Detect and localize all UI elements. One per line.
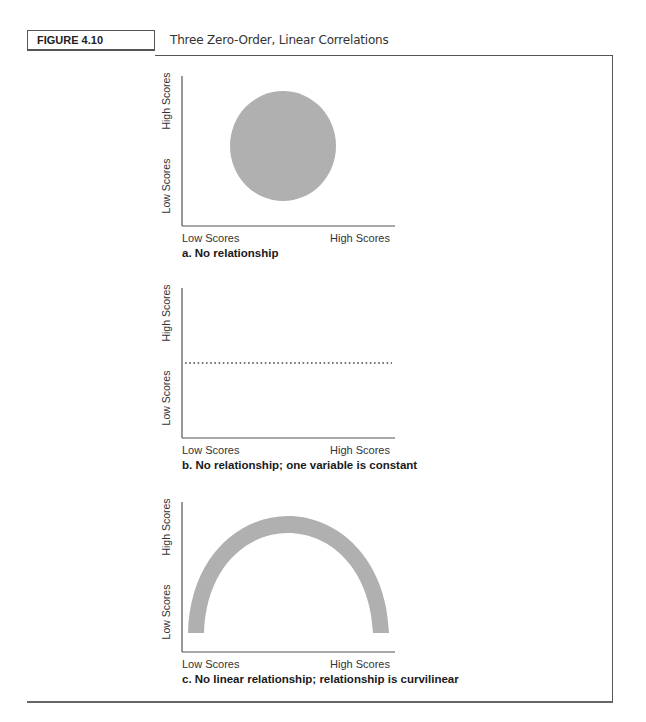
x-label-low: Low Scores: [182, 232, 239, 244]
frame-top-border: [155, 55, 613, 56]
x-label-low: Low Scores: [182, 658, 239, 670]
y-label-low: Low Scores: [160, 371, 172, 426]
frame-right-border: [612, 55, 613, 702]
panel-b-constant: High Scores Low Scores Low Scores High S…: [150, 282, 430, 472]
figure-title: Three Zero-Order, Linear Correlations: [170, 33, 389, 47]
y-label-low: Low Scores: [160, 159, 172, 214]
scatter-cloud-circle: [230, 91, 336, 201]
x-label-high: High Scores: [330, 444, 390, 456]
panel-c-curvilinear: High Scores Low Scores Low Scores High S…: [150, 496, 430, 696]
y-label-high: High Scores: [160, 72, 172, 129]
panel-a-no-relationship: High Scores Low Scores Low Scores High S…: [150, 70, 430, 260]
panel-caption: b. No relationship; one variable is cons…: [182, 459, 417, 471]
inverted-u-band: [188, 516, 389, 633]
x-label-high: High Scores: [330, 658, 390, 670]
y-label-high: High Scores: [160, 498, 172, 555]
y-label-high: High Scores: [160, 284, 172, 341]
panel-caption: a. No relationship: [182, 247, 279, 259]
x-label-low: Low Scores: [182, 444, 239, 456]
figure-number: FIGURE 4.10: [27, 30, 155, 51]
panel-caption: c. No linear relationship; relationship …: [182, 673, 459, 685]
x-label-high: High Scores: [330, 232, 390, 244]
frame-bottom-border: [27, 701, 613, 703]
y-label-low: Low Scores: [160, 585, 172, 640]
